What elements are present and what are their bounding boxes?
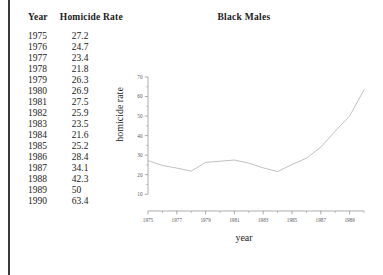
chart-plot-area: 10203040506070 1975197719791981198319851… (108, 4, 380, 262)
x-axis: 19751977197919811983198519871989 (143, 211, 364, 223)
x-tick-label: 1977 (172, 217, 183, 223)
table-cell-year: 1987 (28, 162, 60, 173)
table-cell-year: 1985 (28, 140, 60, 151)
x-tick-label: 1989 (344, 217, 355, 223)
table-header-year: Year (28, 12, 60, 30)
table-cell-year: 1988 (28, 173, 60, 184)
homicide-rate-chart: Black Males homicide rate year 102030405… (108, 4, 380, 262)
x-tick-label: 1985 (287, 217, 298, 223)
table-cell-year: 1983 (28, 118, 60, 129)
x-tick-label: 1975 (143, 217, 154, 223)
y-tick-label: 50 (137, 113, 143, 119)
table-cell-year: 1976 (28, 41, 60, 52)
y-tick-label: 40 (137, 133, 143, 139)
table-cell-year: 1989 (28, 184, 60, 195)
table-cell-year: 1984 (28, 129, 60, 140)
table-cell-year: 1977 (28, 52, 60, 63)
table-cell-year: 1981 (28, 96, 60, 107)
x-tick-label: 1979 (200, 217, 211, 223)
data-series-line (148, 90, 364, 172)
table-cell-year: 1986 (28, 151, 60, 162)
page-left-rule (8, 0, 10, 275)
table-cell-year: 1979 (28, 74, 60, 85)
x-tick-label: 1981 (229, 217, 240, 223)
y-tick-label: 60 (137, 93, 143, 99)
x-tick-label: 1987 (316, 217, 327, 223)
y-axis: 10203040506070 (137, 74, 148, 197)
table-cell-year: 1980 (28, 85, 60, 96)
x-tick-label: 1983 (258, 217, 269, 223)
y-tick-label: 20 (137, 172, 143, 178)
table-cell-year: 1975 (28, 30, 60, 41)
y-tick-label: 70 (137, 74, 143, 80)
y-tick-label: 10 (137, 191, 143, 197)
table-cell-year: 1990 (28, 195, 60, 206)
table-cell-year: 1978 (28, 63, 60, 74)
y-tick-label: 30 (137, 152, 143, 158)
table-cell-year: 1982 (28, 107, 60, 118)
